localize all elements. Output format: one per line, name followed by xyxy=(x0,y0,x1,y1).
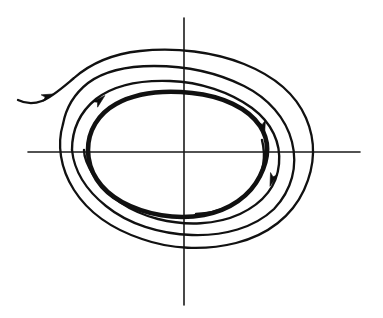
phase-portrait-canvas xyxy=(0,0,383,318)
axes-group xyxy=(28,18,360,305)
limit-cycle-orbit xyxy=(88,92,267,217)
trajectories-group xyxy=(18,50,313,248)
phase-portrait-figure xyxy=(0,0,383,318)
trajectory-core-spiral xyxy=(196,140,264,214)
